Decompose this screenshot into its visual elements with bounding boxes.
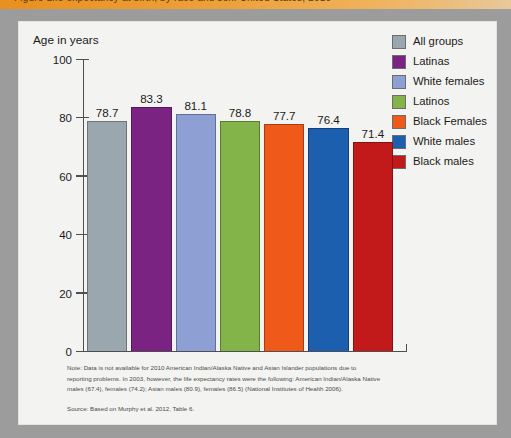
bar-column: 76.4 [308,59,348,351]
bar-column: 78.8 [220,59,260,351]
legend-label: White females [413,76,485,87]
legend-label: Black Females [413,116,487,127]
y-tick-label: 60 [59,171,72,183]
legend-label: Latinos [413,96,449,107]
bar-value-label: 78.7 [87,106,127,119]
y-tick-label: 100 [53,54,72,66]
bar-group: 78.783.381.178.877.776.471.4 [87,59,393,351]
legend-label: Latinas [413,56,449,67]
x-axis-line [83,351,407,352]
figure-inner: Age in years All groupsLatinasWhite fema… [18,21,497,425]
bar-value-label: 83.3 [131,92,171,105]
bar-value-label: 77.7 [264,109,304,122]
bar [264,124,304,351]
notes-block: Note: Data is not available for 2010 Ame… [67,363,474,414]
bar [220,121,260,351]
header-band-text: Figure Life expectancy at birth, by race… [14,0,331,3]
legend-item: All groups [392,33,487,51]
y-tick-label: 0 [66,346,72,358]
bar-column: 71.4 [353,59,393,351]
bar-column: 77.7 [264,59,304,351]
bar [87,121,127,351]
figure-frame: Age in years All groupsLatinasWhite fema… [0,9,511,438]
bar [353,142,393,350]
bar-column: 81.1 [176,59,216,351]
bar-value-label: 71.4 [353,127,393,140]
note-line-3: males (67.4), females (74.2); Asian male… [67,384,474,395]
source-line: Source: Based on Murphy et al. 2012, Tab… [67,404,474,414]
y-tick-label: 20 [59,288,72,300]
note-line-2: reporting problems. In 2003, however, th… [67,374,474,385]
bar-value-label: 76.4 [308,113,348,126]
bar [308,128,348,351]
plot-area: 020406080100 78.783.381.178.877.776.471.… [83,60,407,352]
bar [176,114,216,351]
legend-swatch-icon [392,35,406,49]
header-band: Figure Life expectancy at birth, by race… [0,0,511,9]
legend-label: All groups [413,36,463,47]
y-tick-label: 80 [59,112,72,124]
note-line-1: Note: Data is not available for 2010 Ame… [67,363,474,374]
y-tick-label: 40 [59,229,72,241]
y-axis-line [83,60,84,352]
legend-label: Black males [413,156,474,167]
y-axis-title: Age in years [33,33,99,47]
x-axis-end-tick [406,344,407,352]
bar-value-label: 78.8 [220,106,260,119]
bar-column: 83.3 [131,59,171,351]
bar [131,107,171,350]
figure-page: Figure Life expectancy at birth, by race… [0,0,511,438]
legend-label: White males [413,136,475,147]
bar-value-label: 81.1 [176,99,216,112]
bar-column: 78.7 [87,59,127,351]
y-tick-mark [76,351,89,352]
